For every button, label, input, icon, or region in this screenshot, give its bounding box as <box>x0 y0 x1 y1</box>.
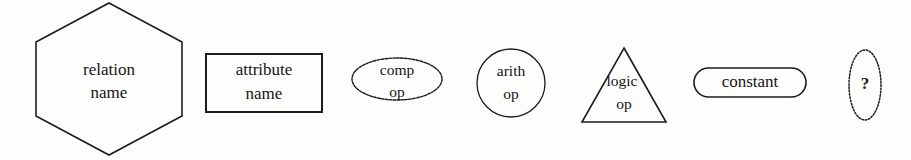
relation-node-label-line1: relation <box>83 60 135 79</box>
comparison-operator-node[interactable]: comp op <box>352 58 442 100</box>
arithmetic-operator-node-label-line1: arith <box>497 62 526 79</box>
attribute-node-label-line2: name <box>246 84 283 103</box>
unknown-node-label: ? <box>861 74 870 93</box>
comparison-operator-node-label-line1: comp <box>380 61 415 78</box>
arithmetic-operator-node[interactable]: arith op <box>477 49 545 117</box>
logic-operator-node-label-line1: logic <box>607 72 638 89</box>
logic-operator-node[interactable]: logic op <box>582 48 666 122</box>
hexagon-shape <box>36 3 182 155</box>
diagram-canvas: relation name attribute name comp op ari… <box>0 0 911 160</box>
constant-node-label: constant <box>722 72 779 91</box>
unknown-node[interactable]: ? <box>849 50 881 120</box>
circle-shape <box>477 49 545 117</box>
attribute-node[interactable]: attribute name <box>206 54 322 112</box>
relation-node[interactable]: relation name <box>36 3 182 155</box>
constant-node[interactable]: constant <box>694 68 806 97</box>
logic-operator-node-label-line2: op <box>616 95 632 112</box>
comparison-operator-node-label-line2: op <box>389 83 405 100</box>
attribute-node-label-line1: attribute <box>236 60 293 79</box>
arithmetic-operator-node-label-line2: op <box>503 85 519 102</box>
relation-node-label-line2: name <box>91 83 128 102</box>
